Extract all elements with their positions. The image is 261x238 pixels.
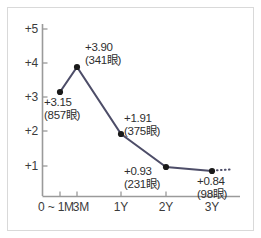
x-tick-label-1y: 1Y — [114, 200, 128, 214]
x-tick-label-2y: 2Y — [159, 200, 173, 214]
annotation-3m: +3.90 (341眼) — [85, 41, 121, 67]
annotation-value: +3.15 — [44, 96, 80, 109]
data-point-marker — [163, 164, 169, 170]
annotation-count: (857眼) — [44, 109, 80, 122]
y-tick-label-3: +3 — [16, 90, 38, 104]
annotation-3y: +0.84 (98眼) — [197, 175, 227, 201]
data-point-marker — [74, 64, 80, 70]
y-tick-label-5: +5 — [16, 22, 38, 36]
annotation-count: (98眼) — [197, 188, 227, 201]
y-tick-label-1: +1 — [16, 159, 38, 173]
annotation-1y: +1.91 (375眼) — [124, 112, 160, 138]
data-point-marker — [209, 168, 215, 174]
x-tick-label-3y: 3Y — [205, 200, 219, 214]
annotation-value: +3.90 — [85, 41, 121, 54]
annotation-value: +0.84 — [197, 175, 227, 188]
annotation-value: +0.93 — [124, 165, 160, 178]
annotation-count: (375眼) — [124, 125, 160, 138]
y-tick-label-4: +4 — [16, 56, 38, 70]
annotation-0-1m: +3.15 (857眼) — [44, 96, 80, 122]
annotation-count: (231眼) — [124, 178, 160, 191]
annotation-count: (341眼) — [85, 54, 121, 67]
y-tick-label-2: +2 — [16, 124, 38, 138]
annotation-2y: +0.93 (231眼) — [124, 165, 160, 191]
data-point-marker — [57, 89, 63, 95]
trailing-dotted-line — [213, 170, 231, 171]
x-tick-label-3m: 3M — [73, 200, 89, 214]
chart-figure: +5 +4 +3 +2 +1 0 ~ 1M 3M 1Y 2Y 3Y +3.15 … — [0, 0, 261, 238]
x-tick-label-0-1m: 0 ~ 1M — [38, 200, 74, 214]
annotation-value: +1.91 — [124, 112, 160, 125]
